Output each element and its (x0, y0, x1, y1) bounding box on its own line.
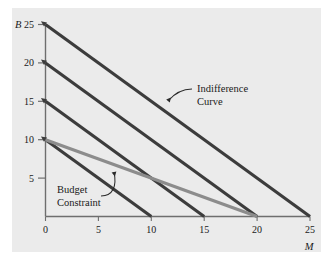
y-tick-label-20: 20 (24, 57, 34, 68)
x-tick-label-0: 0 (43, 224, 48, 235)
y-tick-label-5: 5 (29, 173, 34, 184)
x-axis-label: M (304, 241, 315, 252)
annotation-budget-constraint: Budget Constraint (57, 172, 115, 208)
y-tick-marks (38, 25, 46, 179)
indifference-curve-arrow (168, 89, 192, 101)
annotation-indifference-curve: Indifference Curve (168, 83, 248, 107)
indifference-curve-label-line1: Indifference (197, 83, 248, 94)
x-tick-label-25: 25 (305, 224, 315, 235)
y-tick-labels: 25 20 15 10 5 (24, 19, 34, 184)
x-tick-label-20: 20 (252, 224, 262, 235)
x-tick-label-10: 10 (146, 224, 156, 235)
y-tick-label-15: 15 (24, 96, 34, 107)
chart-canvas: 25 20 15 10 5 0 5 10 15 20 25 B M Indiff… (0, 0, 333, 268)
y-axis-label: B (15, 19, 22, 30)
y-tick-label-25: 25 (24, 19, 34, 30)
indifference-curve-label-line2: Curve (197, 96, 223, 107)
y-tick-label-10: 10 (24, 134, 34, 145)
budget-constraint-label-line2: Constraint (57, 197, 101, 208)
x-tick-labels: 0 5 10 15 20 25 (43, 224, 315, 235)
x-tick-label-5: 5 (96, 224, 101, 235)
x-tick-label-15: 15 (199, 224, 209, 235)
figure-container: 25 20 15 10 5 0 5 10 15 20 25 B M Indiff… (0, 0, 333, 268)
budget-constraint-label-line1: Budget (57, 184, 87, 195)
